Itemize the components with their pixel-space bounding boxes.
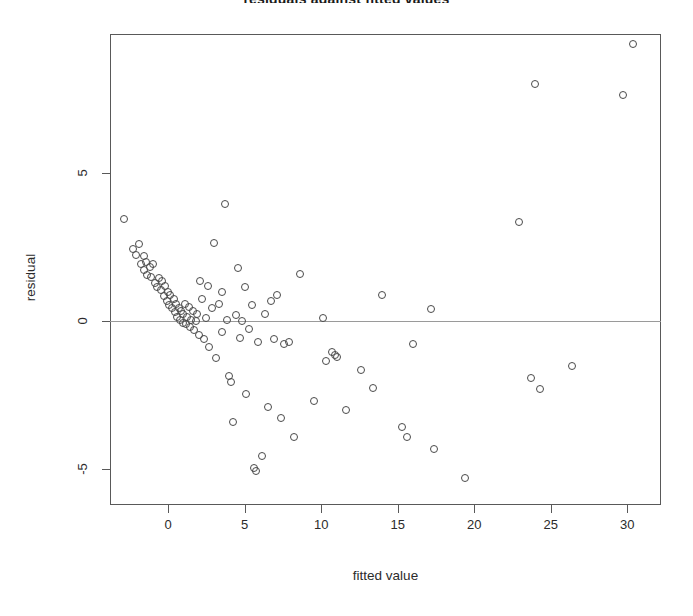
page-title: residuals against fitted values <box>0 0 693 3</box>
x-axis-tick <box>398 505 399 513</box>
x-axis-tick-label: 0 <box>165 517 172 532</box>
x-axis-tick <box>551 505 552 513</box>
plot-frame <box>110 34 661 505</box>
y-axis-tick-label: -5 <box>75 464 90 476</box>
y-axis-tick <box>102 173 110 174</box>
x-axis-tick-label: 5 <box>241 517 248 532</box>
x-axis-tick <box>168 505 169 513</box>
y-axis-tick-label: 0 <box>75 318 90 325</box>
residual-plot-figure: residuals against fitted values 05101520… <box>0 0 693 616</box>
y-axis-tick <box>102 321 110 322</box>
y-axis-label: residual <box>23 248 38 308</box>
x-axis-tick-label: 25 <box>544 517 558 532</box>
x-axis-tick-label: 15 <box>391 517 405 532</box>
x-axis-tick-label: 30 <box>620 517 634 532</box>
x-axis-tick <box>321 505 322 513</box>
x-axis-tick <box>474 505 475 513</box>
y-axis-tick <box>102 469 110 470</box>
x-axis-tick <box>627 505 628 513</box>
x-axis-tick-label: 10 <box>314 517 328 532</box>
y-axis-tick-label: 5 <box>75 170 90 177</box>
x-axis-label: fitted value <box>110 568 661 583</box>
x-axis-tick-label: 20 <box>467 517 481 532</box>
x-axis-tick <box>245 505 246 513</box>
